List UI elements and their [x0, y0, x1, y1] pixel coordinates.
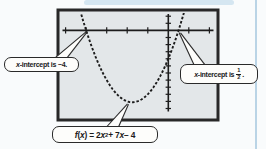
callout-x-intercept-left: x-intercept is −4.	[4, 57, 79, 72]
one-half-fraction: 12	[236, 68, 241, 81]
formula-equals-2: ) = 2	[84, 130, 100, 140]
callout-right-period: .	[242, 71, 244, 78]
fraction-denominator: 2	[236, 75, 241, 81]
callout-x-intercept-right: x-intercept is12.	[180, 64, 258, 84]
figure: x-intercept is −4. x-intercept is12. f(x…	[0, 0, 266, 149]
callout-function-formula: f(x) = 2x2 + 7x − 4	[52, 126, 158, 143]
formula-minus-4: − 4	[124, 130, 135, 140]
formula-plus-7: + 7	[108, 130, 119, 140]
callout-left-text: -intercept is −4.	[20, 61, 67, 68]
callout-right-text: -intercept is	[198, 71, 234, 78]
